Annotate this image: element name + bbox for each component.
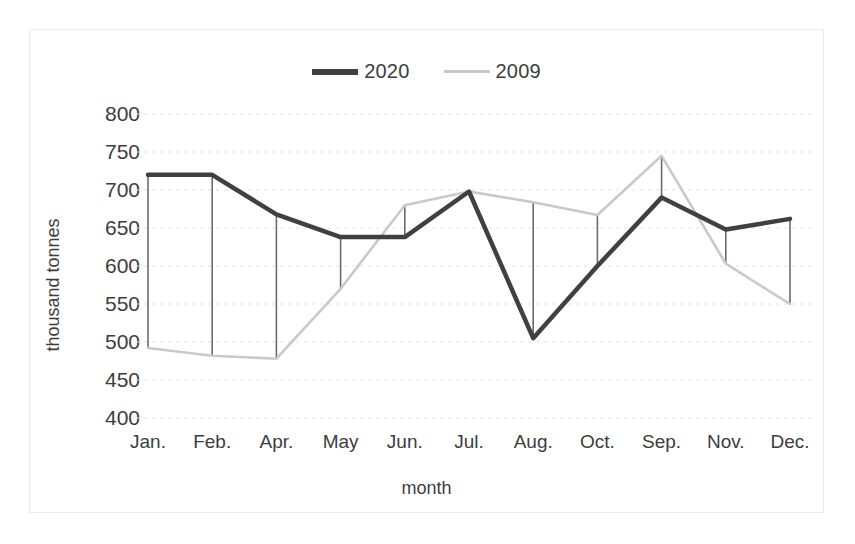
plot-area: [30, 30, 825, 514]
high-low-droplines: [148, 156, 790, 359]
chart-container: 2020 2009 thousand tonnes month 80075070…: [29, 29, 824, 513]
gridlines: [136, 114, 812, 418]
series-lines: [148, 156, 790, 359]
